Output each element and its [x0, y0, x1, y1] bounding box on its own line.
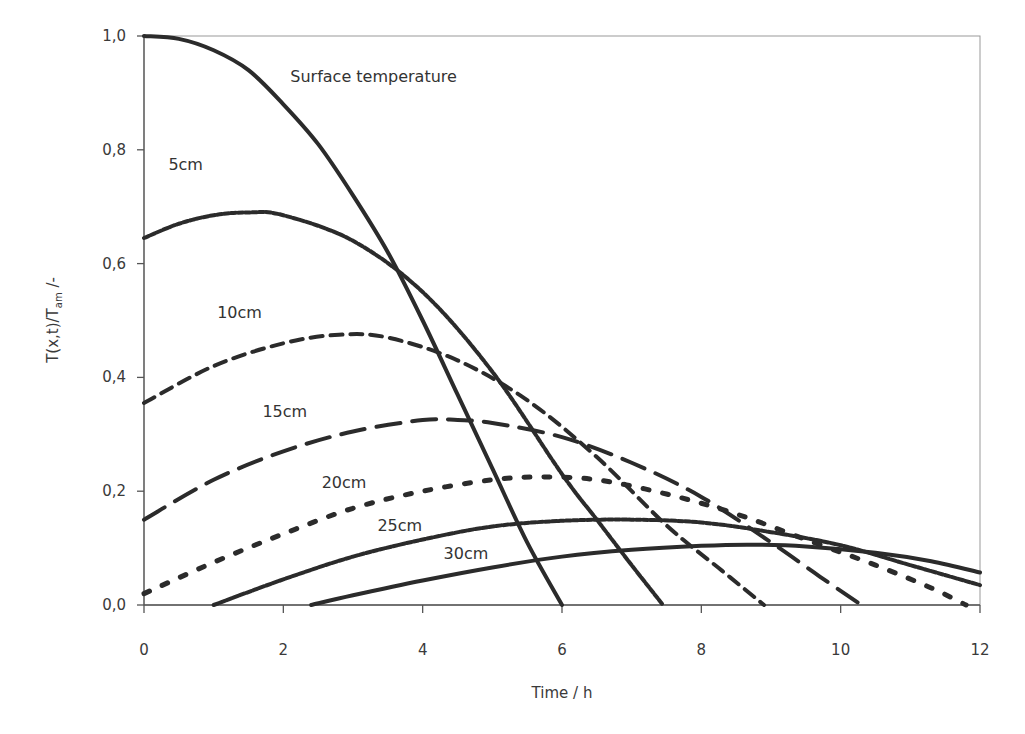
- x-tick-label: 8: [697, 641, 707, 659]
- y-axis: 0,00,20,40,60,81,0: [102, 27, 144, 614]
- series-line-25cm: [214, 520, 980, 605]
- x-tick-label: 0: [139, 641, 149, 659]
- series-label: 20cm: [322, 473, 367, 492]
- x-tick-label: 2: [279, 641, 289, 659]
- y-axis-title: T(x,t)/Tam /-: [44, 277, 64, 364]
- x-axis-title: Time / h: [531, 684, 593, 702]
- x-tick-label: 10: [831, 641, 850, 659]
- series-label: 15cm: [262, 402, 307, 421]
- series-label: 10cm: [217, 303, 262, 322]
- x-tick-label: 12: [970, 641, 989, 659]
- line-chart: 0,00,20,40,60,81,0 024681012 Surface tem…: [0, 0, 1025, 734]
- y-tick-label: 0,0: [102, 596, 126, 614]
- series-group: [144, 36, 980, 605]
- x-tick-label: 6: [557, 641, 567, 659]
- x-tick-label: 4: [418, 641, 428, 659]
- series-line-5cm: [144, 212, 663, 605]
- y-axis-title-sub: am: [53, 292, 64, 308]
- series-label: 25cm: [377, 516, 422, 535]
- series-line-surface-temperature: [144, 36, 562, 605]
- y-tick-label: 0,4: [102, 368, 126, 386]
- y-tick-label: 0,2: [102, 482, 126, 500]
- x-axis: 024681012: [139, 605, 989, 659]
- series-label: 30cm: [444, 544, 489, 563]
- series-line-15cm: [144, 419, 862, 605]
- y-tick-label: 0,6: [102, 255, 126, 273]
- series-line-30cm: [311, 545, 980, 605]
- series-labels: Surface temperature5cm10cm15cm20cm25cm30…: [168, 67, 488, 564]
- y-tick-label: 1,0: [102, 27, 126, 45]
- y-tick-label: 0,8: [102, 141, 126, 159]
- y-axis-title-suffix: /-: [44, 277, 62, 292]
- y-axis-title-main: T(x,t)/T: [44, 307, 62, 363]
- series-label: Surface temperature: [290, 67, 457, 86]
- series-line-10cm: [144, 334, 764, 605]
- series-label: 5cm: [168, 155, 203, 174]
